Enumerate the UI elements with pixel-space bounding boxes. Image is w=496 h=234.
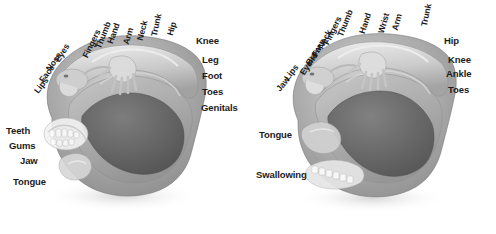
label-hip: Hip — [444, 36, 459, 46]
homunculus-figure: LipsFaceNoseEyesFingersThumbHandArmNeckT… — [0, 0, 496, 234]
label-leg: Leg — [202, 55, 219, 65]
label-knee: Knee — [196, 36, 219, 46]
label-tongue: Tongue — [13, 177, 46, 187]
label-toes: Toes — [448, 85, 469, 95]
label-toes: Toes — [202, 87, 223, 97]
label-foot: Foot — [202, 71, 222, 81]
label-knee: Knee — [448, 55, 471, 65]
label-ankle: Ankle — [446, 69, 471, 79]
label-gums: Gums — [9, 141, 36, 151]
label-teeth: Teeth — [6, 126, 30, 136]
motor-homunculus-panel: JawLipsEyelidBrowFaceNeckFingersThumbHan… — [248, 0, 496, 234]
sensory-homunculus-panel: LipsFaceNoseEyesFingersThumbHandArmNeckT… — [0, 0, 248, 234]
label-genitals: Genitals — [201, 103, 238, 113]
label-tongue: Tongue — [259, 130, 292, 140]
label-jaw: Jaw — [20, 156, 38, 166]
label-swallowing: Swallowing — [256, 170, 307, 180]
